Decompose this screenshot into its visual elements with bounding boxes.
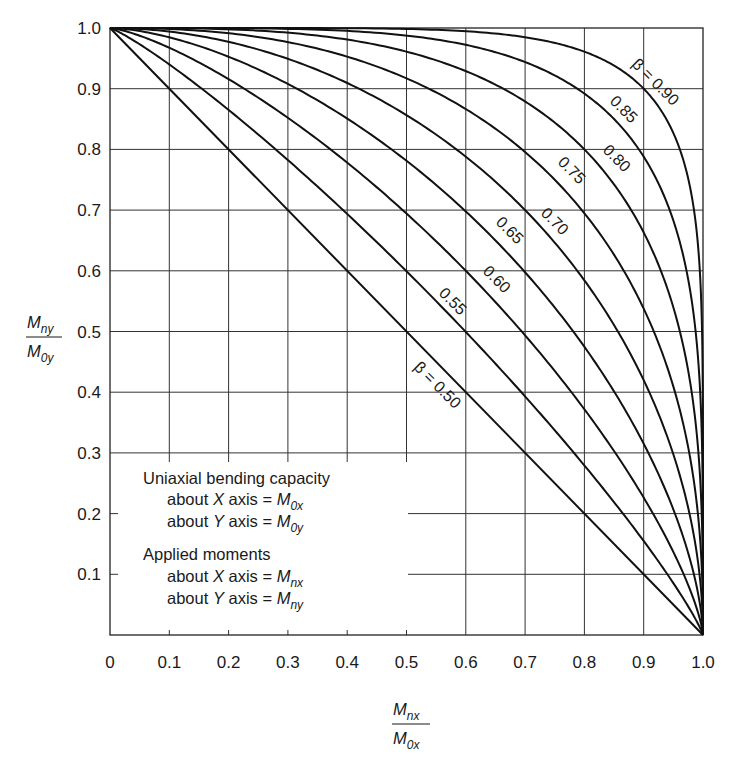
svg-text:Mny: Mny bbox=[27, 313, 54, 336]
y-tick-label: 1.0 bbox=[77, 19, 101, 38]
x-tick-label: 0.9 bbox=[632, 653, 656, 672]
y-tick-label: 0.6 bbox=[77, 262, 101, 281]
svg-text:Mnx: Mnx bbox=[393, 700, 420, 723]
x-tick-label: 0.1 bbox=[157, 653, 181, 672]
curve-label-0.70: 0.70 bbox=[538, 204, 572, 238]
biaxial-bending-interaction-chart: β = 0.500.550.600.650.700.750.800.85β = … bbox=[0, 0, 739, 765]
x-tick-label: 0.4 bbox=[335, 653, 359, 672]
y-tick-labels: 1.00.90.80.70.60.50.40.30.20.1 bbox=[77, 19, 101, 584]
y-tick-label: 0.5 bbox=[77, 323, 101, 342]
x-tick-label: 0.8 bbox=[573, 653, 597, 672]
y-tick-label: 0.1 bbox=[77, 565, 101, 584]
x-tick-labels: 00.10.20.30.40.50.60.70.80.91.0 bbox=[105, 653, 715, 672]
x-tick-label: 0.3 bbox=[276, 653, 300, 672]
y-axis-label: Mny M0y bbox=[26, 313, 62, 365]
x-tick-label: 0 bbox=[105, 653, 114, 672]
y-tick-label: 0.7 bbox=[77, 201, 101, 220]
curve-label-0.85: 0.85 bbox=[607, 92, 641, 126]
x-tick-label: 0.6 bbox=[454, 653, 478, 672]
svg-text:M0x: M0x bbox=[393, 729, 420, 752]
x-tick-label: 0.5 bbox=[395, 653, 419, 672]
curve-label-0.50: β = 0.50 bbox=[411, 358, 465, 412]
notation-legend: Uniaxial bending capacity about X axis =… bbox=[118, 462, 408, 630]
y-tick-label: 0.4 bbox=[77, 383, 101, 402]
curve-label-0.55: 0.55 bbox=[436, 284, 470, 318]
x-tick-label: 1.0 bbox=[691, 653, 715, 672]
x-tick-label: 0.2 bbox=[217, 653, 241, 672]
x-axis-label: Mnx M0x bbox=[392, 700, 430, 752]
legend-heading-capacity: Uniaxial bending capacity bbox=[143, 469, 331, 487]
y-tick-label: 0.3 bbox=[77, 444, 101, 463]
svg-text:M0y: M0y bbox=[27, 342, 54, 365]
y-tick-label: 0.9 bbox=[77, 80, 101, 99]
curve-label-0.75: 0.75 bbox=[555, 153, 589, 187]
curve-label-0.80: 0.80 bbox=[600, 141, 634, 175]
y-tick-label: 0.8 bbox=[77, 140, 101, 159]
x-tick-label: 0.7 bbox=[513, 653, 537, 672]
y-tick-label: 0.2 bbox=[77, 505, 101, 524]
legend-heading-applied: Applied moments bbox=[143, 545, 270, 563]
